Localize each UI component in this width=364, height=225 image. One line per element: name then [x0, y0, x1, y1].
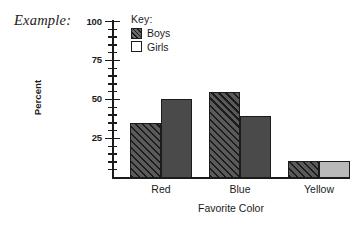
- x-axis-label: Favorite Color: [112, 202, 350, 214]
- y-axis-minor-tick: [108, 107, 117, 108]
- y-axis-minor-tick: [108, 68, 117, 69]
- bar-yellow-boys: [288, 161, 319, 178]
- y-axis-label: Percent: [32, 52, 43, 144]
- y-axis-minor-tick: [108, 83, 117, 84]
- y-axis-minor-tick: [108, 44, 117, 45]
- y-axis-minor-tick: [108, 169, 117, 170]
- legend-label: Boys: [147, 27, 170, 39]
- y-axis-minor-tick: [108, 114, 117, 115]
- y-axis-major-tick: [105, 21, 120, 22]
- bar-red-boys: [130, 123, 161, 178]
- y-axis-minor-tick: [108, 75, 117, 76]
- y-axis-minor-tick: [108, 161, 117, 162]
- x-axis-tick-label-blue: Blue: [210, 183, 270, 195]
- y-axis-tick-label: 25: [72, 132, 102, 143]
- outline-swatch-icon: [131, 41, 142, 52]
- y-axis-tick-label: 50: [72, 93, 102, 104]
- y-axis-tick-label: 75: [72, 54, 102, 65]
- y-axis-minor-tick: [108, 29, 117, 30]
- chart-legend: Key: BoysGirls: [131, 13, 170, 54]
- legend-item-girls: Girls: [131, 41, 170, 53]
- bar-red-girls: [161, 99, 192, 179]
- y-axis-major-tick: [105, 60, 120, 61]
- bar-yellow-girls: [319, 161, 350, 178]
- y-axis-minor-tick: [108, 146, 117, 147]
- bar-blue-girls: [240, 116, 271, 178]
- y-axis-minor-tick: [108, 91, 117, 92]
- bar-blue-boys: [209, 92, 240, 178]
- y-axis-minor-tick: [108, 130, 117, 131]
- y-axis-major-tick: [105, 99, 120, 100]
- legend-label: Girls: [147, 41, 169, 53]
- y-axis-major-tick: [105, 138, 120, 139]
- y-axis-minor-tick: [108, 36, 117, 37]
- y-axis-tick-label: 100: [72, 16, 102, 27]
- y-axis-minor-tick: [108, 52, 117, 53]
- bar-chart-figure: 255075100 Percent RedBlueYellow Favorite…: [0, 0, 364, 225]
- legend-title: Key:: [131, 13, 170, 25]
- y-axis-minor-tick: [108, 122, 117, 123]
- legend-rows: BoysGirls: [131, 27, 170, 53]
- hatched-swatch-icon: [131, 28, 142, 39]
- y-axis-minor-tick: [108, 153, 117, 154]
- x-axis-tick-label-yellow: Yellow: [289, 183, 349, 195]
- x-axis-tick-label-red: Red: [131, 183, 191, 195]
- legend-item-boys: Boys: [131, 27, 170, 39]
